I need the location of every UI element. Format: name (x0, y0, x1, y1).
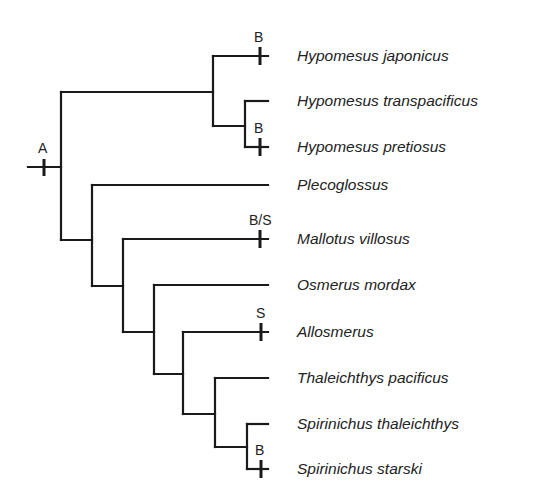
allosmerus-marker-label: S (256, 305, 265, 321)
pretiosus-marker-label: B (254, 120, 263, 136)
mallotus-marker-label: B/S (249, 212, 272, 228)
hypomesus-clade: B B (61, 29, 268, 156)
taxon-label: Thaleichthys pacificus (297, 369, 449, 387)
taxon-label: Hypomesus japonicus (297, 47, 449, 65)
taxon-label: Osmerus mordax (297, 276, 416, 294)
taxon-label: Spirinichus thaleichthys (297, 415, 459, 433)
taxon-label: Hypomesus transpacificus (297, 92, 478, 110)
taxon-label: Hypomesus pretiosus (297, 138, 446, 156)
starski-marker-label: B (255, 442, 264, 458)
root-branch: A (28, 92, 61, 240)
taxon-label: Allosmerus (297, 323, 374, 341)
taxon-label: Mallotus villosus (297, 230, 410, 248)
lower-clade: B/S S B (61, 185, 272, 478)
japonicus-marker-label: B (254, 29, 263, 45)
root-marker-label: A (38, 140, 48, 156)
taxon-label: Spirinichus starski (297, 460, 422, 478)
taxon-label: Plecoglossus (297, 176, 388, 194)
